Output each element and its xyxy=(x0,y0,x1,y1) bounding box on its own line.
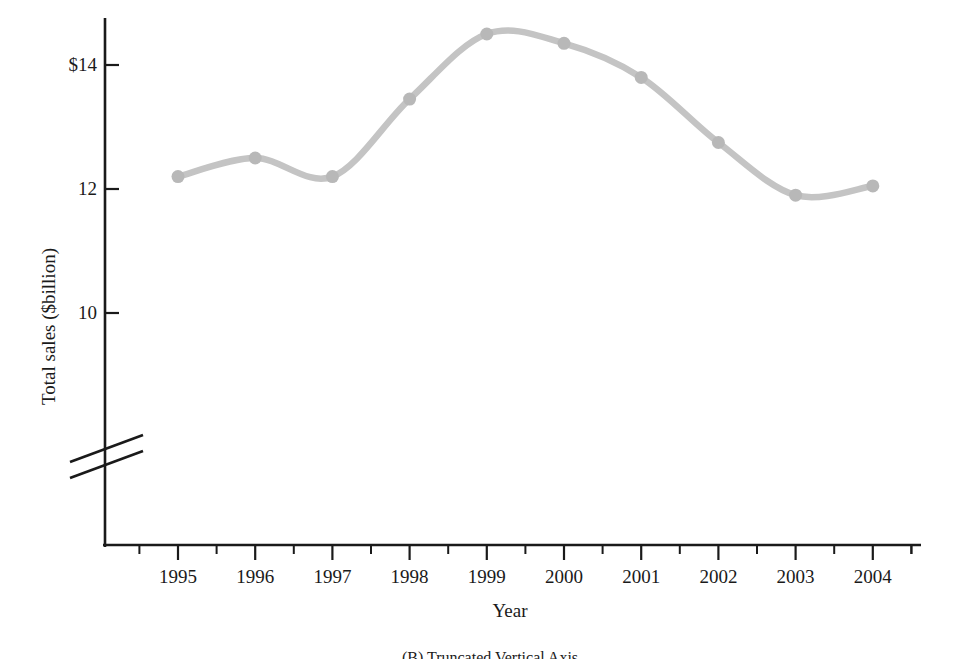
x-tick-label: 2003 xyxy=(756,567,836,586)
data-point-marker xyxy=(635,71,648,84)
data-point-marker xyxy=(712,136,725,149)
x-axis-ticks xyxy=(139,545,911,560)
y-axis-ticks xyxy=(105,65,119,313)
x-tick-label: 2000 xyxy=(524,567,604,586)
data-point-marker xyxy=(172,170,185,183)
data-point-marker xyxy=(326,170,339,183)
data-point-marker xyxy=(866,179,879,192)
x-tick-label: 2001 xyxy=(601,567,681,586)
y-tick-label: 10 xyxy=(78,303,97,322)
figure-caption: (B) Truncated Vertical Axis xyxy=(0,650,980,659)
x-tick-label: 1998 xyxy=(370,567,450,586)
x-axis-title: Year xyxy=(0,600,980,622)
axis-lines xyxy=(103,18,921,547)
y-tick-label: $14 xyxy=(69,55,98,74)
data-point-marker xyxy=(403,93,416,106)
chart-plot-area xyxy=(0,0,980,659)
data-point-marker xyxy=(480,28,493,41)
x-tick-label: 1996 xyxy=(215,567,295,586)
data-point-marker xyxy=(558,37,571,50)
x-tick-label: 2004 xyxy=(833,567,913,586)
y-axis-title: Total sales ($billion) xyxy=(38,248,60,405)
x-tick-label: 1999 xyxy=(447,567,527,586)
x-tick-label: 2002 xyxy=(678,567,758,586)
x-tick-label: 1995 xyxy=(138,567,218,586)
axis-break-marker xyxy=(70,435,143,478)
x-tick-label: 1997 xyxy=(292,567,372,586)
data-markers xyxy=(172,28,880,202)
y-tick-label: 12 xyxy=(78,179,97,198)
data-point-marker xyxy=(789,189,802,202)
chart-figure: $141210 19951996199719981999200020012002… xyxy=(0,0,980,659)
data-line-total-sales xyxy=(178,30,873,197)
data-point-marker xyxy=(249,152,262,165)
